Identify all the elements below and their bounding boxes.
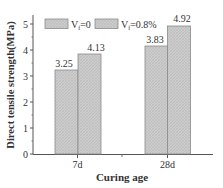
bar-group-28d: 3.83 4.92	[145, 13, 191, 154]
x-axis-title: Curing age	[96, 171, 148, 183]
data-label: 3.83	[146, 34, 164, 45]
y-tick-label: 5	[23, 19, 28, 30]
bar-7d-vf08	[78, 54, 101, 154]
y-tick-label: 4	[23, 45, 28, 56]
y-tick-label: 3	[23, 71, 28, 82]
y-tick-label: 2	[23, 97, 28, 108]
y-axis-title: Direct tensile strength(MPa)	[5, 21, 17, 149]
bar-group-7d: 3.25 4.13	[55, 42, 105, 154]
bar-28d-vf0	[145, 46, 168, 154]
x-tick-label: 28d	[160, 159, 175, 170]
svg-text:Vf=0.8%: Vf=0.8%	[121, 19, 157, 31]
legend-item-vf0: Vf=0	[45, 19, 91, 31]
legend-item-vf08: Vf=0.8%	[95, 19, 157, 31]
data-label: 4.13	[87, 42, 105, 53]
x-axis: 7d 28d Curing age	[33, 155, 213, 184]
legend: Vf=0 Vf=0.8%	[45, 19, 157, 31]
svg-text:Vf=0: Vf=0	[71, 19, 91, 31]
legend-label-rest: =0	[80, 19, 91, 30]
data-label: 4.92	[173, 13, 191, 24]
y-tick-label: 0	[23, 149, 28, 160]
bar-28d-vf08	[168, 26, 191, 154]
y-axis: 0 1 2 3 4 5 Direct tensile strength(MPa)	[5, 15, 33, 160]
x-tick-label: 7d	[73, 159, 83, 170]
bar-7d-vf0	[55, 70, 78, 154]
legend-label-rest: =0.8%	[130, 19, 156, 30]
data-label: 3.25	[55, 58, 73, 69]
bar-chart: 0 1 2 3 4 5 Direct tensile strength(MPa)…	[0, 0, 223, 188]
y-tick-label: 1	[23, 123, 28, 134]
